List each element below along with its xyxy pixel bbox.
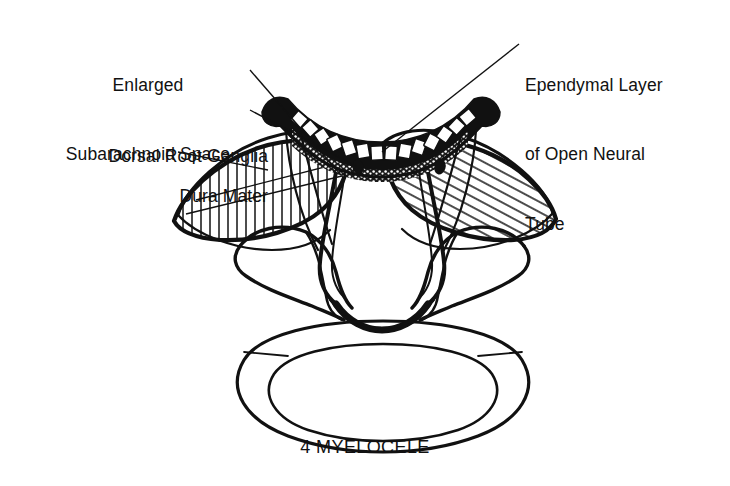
- label-ependymal-line1: Ependymal Layer: [525, 74, 725, 97]
- label-ependymal-line3: Tube: [525, 213, 725, 236]
- label-dura-mater: Dura Mater: [34, 139, 268, 254]
- label-ependymal-line2: of Open Neural: [525, 143, 725, 166]
- label-dura-line1: Dura Mater: [34, 185, 268, 208]
- myelocele-figure: Enlarged Subarachnoid Space Dorsal Root …: [0, 0, 730, 486]
- figure-caption: 4 MYELOCELE: [0, 437, 730, 458]
- label-enlarged-line1: Enlarged: [28, 74, 268, 97]
- label-ependymal-layer: Ependymal Layer of Open Neural Tube: [525, 28, 725, 282]
